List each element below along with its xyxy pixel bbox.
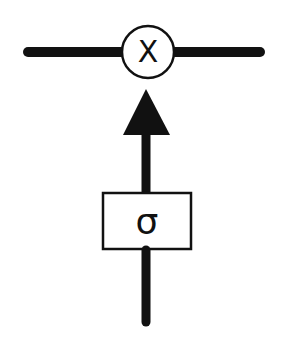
gate-arrow <box>123 89 170 192</box>
arrow-head-icon <box>123 89 170 135</box>
multiply-node: X <box>122 26 174 78</box>
sigmoid-gate-diagram: X σ <box>0 0 287 362</box>
multiply-label: X <box>138 34 159 69</box>
sigmoid-label: σ <box>136 201 159 242</box>
sigmoid-node: σ <box>103 193 191 249</box>
